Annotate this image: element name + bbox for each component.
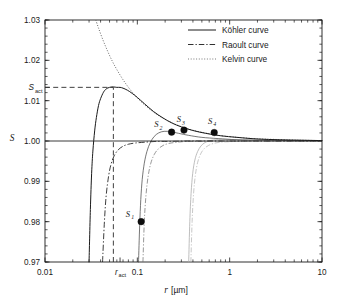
y-tick-label: 1.00 bbox=[24, 137, 40, 146]
x-axis-title-unit: [µm] bbox=[171, 285, 188, 295]
x-axis-tick-labels: 0.010.1110 bbox=[37, 268, 327, 277]
raoult-curve-tertiary bbox=[191, 141, 322, 262]
r-act-axis-label-subscript: act bbox=[119, 272, 127, 278]
s-act-axis-label-subscript: act bbox=[35, 88, 43, 94]
legend-label: Kelvin curve bbox=[222, 54, 268, 64]
x-axis-title-symbol: r bbox=[164, 285, 168, 295]
marker-label: S bbox=[177, 114, 182, 124]
marker-dot bbox=[211, 129, 218, 136]
kohler-curve-tertiary bbox=[189, 139, 322, 262]
legend-item: Köhler curve bbox=[188, 25, 269, 35]
chart-legend: Köhler curveRaoult curveKelvin curve bbox=[188, 25, 269, 64]
y-tick-label: 1.03 bbox=[24, 16, 40, 25]
marker-label: S bbox=[126, 209, 131, 219]
y-tick-label: 0.98 bbox=[24, 218, 40, 227]
marker-label-subscript: 1 bbox=[131, 214, 134, 220]
y-tick-label: 1.02 bbox=[24, 56, 40, 65]
chart-canvas: 0.010.1110 0.970.980.991.001.011.021.03 … bbox=[0, 0, 348, 300]
legend-label: Köhler curve bbox=[222, 25, 269, 35]
data-point-marker: S2 bbox=[154, 119, 175, 135]
marker-dot bbox=[181, 127, 188, 134]
s-act-axis-label: S bbox=[29, 83, 35, 92]
legend-item: Kelvin curve bbox=[188, 54, 268, 64]
raoult-curve-secondary bbox=[143, 141, 322, 262]
marker-label-subscript: 4 bbox=[213, 121, 216, 127]
kohler-curve bbox=[89, 87, 322, 262]
x-tick-label: 0.01 bbox=[37, 268, 53, 277]
data-point-marker: S4 bbox=[208, 116, 218, 136]
y-tick-label: 0.99 bbox=[24, 177, 40, 186]
x-tick-label: 10 bbox=[317, 268, 327, 277]
data-point-markers: S1S2S3S4 bbox=[126, 114, 218, 225]
legend-item: Raoult curve bbox=[188, 40, 269, 50]
kohler-curve-secondary bbox=[139, 131, 322, 262]
axis-special-annotations: S act r act bbox=[29, 83, 127, 278]
y-tick-label: 1.01 bbox=[24, 97, 40, 106]
marker-label: S bbox=[208, 116, 213, 126]
y-axis-tick-labels: 0.970.980.991.001.011.021.03 bbox=[24, 16, 40, 267]
data-point-marker: S1 bbox=[126, 209, 145, 225]
data-point-marker: S3 bbox=[177, 114, 188, 133]
kohler-curve-figure: 0.010.1110 0.970.980.991.001.011.021.03 … bbox=[0, 0, 348, 300]
raoult-curve bbox=[103, 141, 322, 262]
y-tick-label: 0.97 bbox=[24, 258, 40, 267]
curve-layer bbox=[45, 20, 322, 262]
guide-lines bbox=[45, 87, 113, 262]
marker-dot bbox=[138, 218, 145, 225]
y-axis-title: S bbox=[10, 133, 15, 143]
legend-label: Raoult curve bbox=[222, 40, 269, 50]
x-tick-label: 0.1 bbox=[132, 268, 144, 277]
marker-dot bbox=[168, 129, 175, 136]
x-tick-label: 1 bbox=[227, 268, 232, 277]
marker-label: S bbox=[154, 119, 159, 129]
marker-label-subscript: 2 bbox=[160, 125, 163, 131]
marker-label-subscript: 3 bbox=[181, 120, 185, 126]
